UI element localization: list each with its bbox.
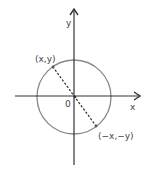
x-axis-label: x [130,102,136,112]
point-xy-label: (x,y) [35,54,56,64]
origin-label: 0 [65,99,71,109]
symmetry-diagram: y x 0 (x,y) (−x,−y) [0,0,148,174]
y-axis-label: y [66,18,72,28]
point-neg-xy [95,125,98,128]
point-xy [52,66,55,69]
origin-point [74,96,77,99]
point-neg-xy-label: (−x,−y) [98,131,134,141]
